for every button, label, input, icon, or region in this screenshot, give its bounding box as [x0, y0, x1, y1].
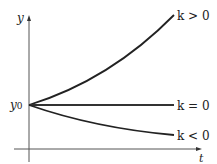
x-axis-label: t [199, 153, 203, 164]
curve-k-negative [29, 105, 174, 135]
y0-label: y0 [10, 99, 23, 111]
curve-k-positive [29, 15, 174, 105]
y0-subscript: 0 [17, 101, 23, 111]
y0-main: y [10, 98, 17, 112]
legend-k-zero: k = 0 [177, 100, 210, 112]
y-axis-arrow-icon [27, 15, 31, 21]
legend-k-negative: k < 0 [177, 130, 210, 142]
legend-k-positive: k > 0 [177, 10, 210, 22]
x-axis-arrow-icon [196, 147, 202, 151]
y-axis-label: y [17, 12, 24, 24]
